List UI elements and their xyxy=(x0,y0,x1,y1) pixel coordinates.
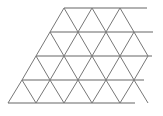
diagonal-line xyxy=(78,8,92,32)
triangular-grid-diagram xyxy=(0,0,163,116)
diagonal-line xyxy=(36,56,50,80)
diagonal-line xyxy=(106,80,120,103)
diagonal-line xyxy=(36,32,50,56)
diagonal-line xyxy=(92,80,106,103)
diagonal-line xyxy=(120,56,134,80)
diagonal-line xyxy=(64,8,78,32)
diagonal-line xyxy=(78,80,92,103)
diagonal-line xyxy=(36,80,50,103)
diagonal-line xyxy=(22,56,36,80)
diagonal-line xyxy=(106,8,120,32)
diagonal-line xyxy=(120,32,134,56)
diagonal-line xyxy=(50,8,64,32)
diagonal-line xyxy=(22,80,36,103)
diagonal-line xyxy=(50,80,64,103)
diagonal-line xyxy=(50,32,64,56)
diagonal-line xyxy=(64,80,78,103)
diagonal-line xyxy=(134,80,148,103)
diagonal-line xyxy=(120,80,134,103)
diagonal-line xyxy=(92,32,106,56)
diagonal-line xyxy=(120,8,134,32)
diagonal-line xyxy=(106,56,120,80)
diagonal-line xyxy=(50,56,64,80)
diagonal-line xyxy=(92,56,106,80)
diagonal-line xyxy=(92,8,106,32)
diagonal-line xyxy=(64,32,78,56)
diagonal-line xyxy=(78,32,92,56)
diagonal-line xyxy=(8,80,22,103)
diagonal-line xyxy=(64,56,78,80)
horizontal-lines xyxy=(8,8,153,103)
diagonal-line xyxy=(106,32,120,56)
diagonal-line xyxy=(78,56,92,80)
diagonal-line xyxy=(134,56,148,80)
diagonal-line xyxy=(134,32,148,56)
